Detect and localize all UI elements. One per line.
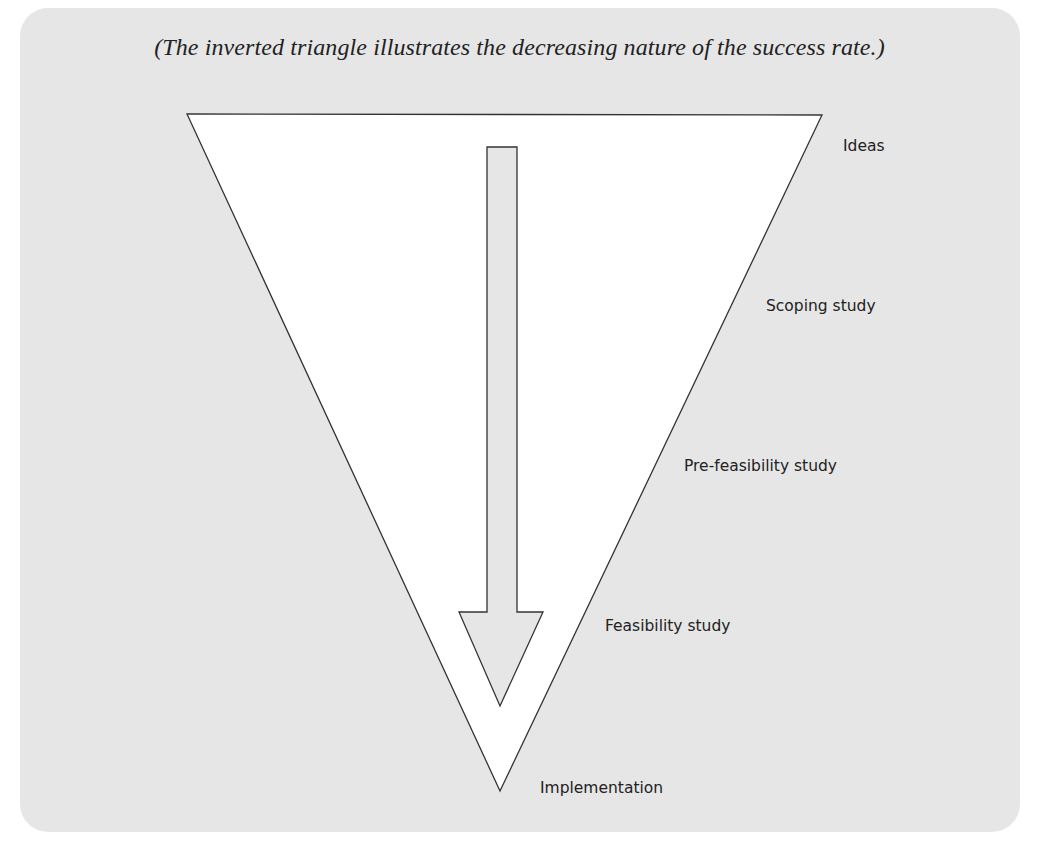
- stage-label-pre-feasibility-study: Pre-feasibility study: [684, 457, 837, 475]
- stage-label-scoping-study: Scoping study: [766, 297, 876, 315]
- stage-label-ideas: Ideas: [843, 137, 885, 155]
- stage-label-feasibility-study: Feasibility study: [605, 617, 730, 635]
- stage-label-implementation: Implementation: [540, 779, 663, 797]
- funnel-diagram: [0, 0, 1039, 856]
